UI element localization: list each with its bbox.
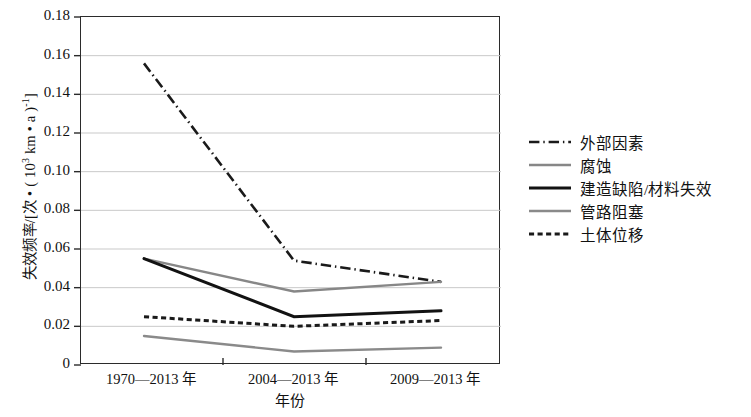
x-tick-label-1: 1970—2013 年 [81, 367, 221, 388]
y-tick: 0.16 [8, 47, 70, 48]
legend-line-sample [528, 181, 572, 195]
y-tick: 0.18 [8, 8, 70, 9]
legend-label: 建造缺陷/材料失效 [580, 177, 712, 199]
legend-label: 腐蚀 [580, 154, 612, 176]
legend-item-5: 土体位移 [528, 222, 743, 245]
y-tick-label: 0.04 [8, 279, 70, 294]
legend-line-sample [528, 204, 572, 218]
legend-line-sample [528, 158, 572, 172]
y-tick: 0.12 [8, 124, 70, 125]
y-tick: 0.08 [8, 201, 70, 202]
x-tick-label-3: 2009—2013 年 [365, 367, 505, 388]
y-tick: 0.06 [8, 240, 70, 241]
series-line-1 [144, 63, 441, 281]
legend-item-3: 建造缺陷/材料失效 [528, 176, 743, 199]
y-tick-label: 0 [8, 356, 70, 371]
y-tick: 0.02 [8, 317, 70, 318]
legend-label: 管路阻塞 [580, 200, 644, 222]
legend-line-sample [528, 135, 572, 149]
legend-item-4: 管路阻塞 [528, 199, 743, 222]
y-tick-label: 0.16 [8, 47, 70, 62]
y-tick: 0.04 [8, 279, 70, 280]
y-tick-label: 0.14 [8, 85, 70, 100]
legend-item-1: 外部因素 [528, 130, 743, 153]
chart-figure: 失效频率/[次 • ( 103 km • a )-1] 00.020.040.0… [0, 0, 751, 417]
y-tick-label: 0.02 [8, 317, 70, 332]
y-tick-label: 0.10 [8, 163, 70, 178]
y-axis-title-part1: 失效频率/[次 • ( 10 [22, 163, 38, 280]
x-axis-title: 年份 [80, 389, 500, 410]
y-tick-label: 0.08 [8, 201, 70, 216]
series-line-5 [144, 317, 441, 327]
legend-label: 土体位移 [580, 223, 644, 245]
y-tick-label: 0.18 [8, 8, 70, 23]
legend-line-sample [528, 227, 572, 241]
y-tick-label: 0.12 [8, 124, 70, 139]
series-line-4 [144, 336, 441, 351]
y-tick-label: 0.06 [8, 240, 70, 255]
plot-area [80, 16, 500, 364]
legend-label: 外部因素 [580, 131, 644, 153]
x-tick-label-2: 2004—2013 年 [223, 367, 363, 388]
legend-item-2: 腐蚀 [528, 153, 743, 176]
y-tick: 0.14 [8, 85, 70, 86]
y-tick: 0.10 [8, 163, 70, 164]
chart-legend: 外部因素腐蚀建造缺陷/材料失效管路阻塞土体位移 [528, 130, 743, 245]
y-tick: 0 [8, 356, 70, 357]
data-series-layer [81, 17, 501, 365]
